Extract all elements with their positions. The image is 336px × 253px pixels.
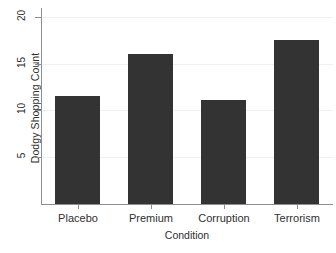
x-axis-line — [41, 204, 333, 205]
bar-corruption — [201, 100, 246, 204]
bar-premium — [128, 54, 173, 204]
x-tick-mark-terrorism — [297, 205, 298, 209]
bar-chart: Dodgy Shopping Count 5 10 15 20 Placebo … — [0, 0, 336, 253]
bar-terrorism — [274, 40, 319, 204]
x-tick-mark-premium — [151, 205, 152, 209]
x-axis-title: Condition — [41, 229, 333, 241]
x-tick-label-terrorism: Terrorism — [252, 212, 336, 224]
x-tick-mark-placebo — [78, 205, 79, 209]
bar-placebo — [55, 96, 100, 204]
bars-layer — [0, 0, 336, 204]
x-tick-mark-corruption — [224, 205, 225, 209]
